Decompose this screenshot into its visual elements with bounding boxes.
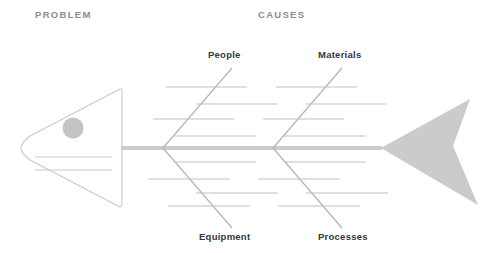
bone-group-people — [153, 68, 277, 148]
category-label-equipment: Equipment — [199, 231, 250, 242]
category-label-processes: Processes — [318, 231, 368, 242]
bone-group-processes — [258, 148, 388, 228]
bone-processes — [273, 148, 342, 228]
fishbone-diagram-graphic — [0, 0, 484, 253]
category-label-materials: Materials — [318, 49, 361, 60]
fishbone-diagram-canvas: PROBLEM CAUSES People Materials Equipmen… — [0, 0, 484, 253]
fish-tail-icon — [381, 99, 478, 205]
fish-head-group — [21, 89, 122, 207]
bone-group-materials — [263, 68, 387, 148]
category-label-people: People — [208, 49, 241, 60]
fish-eye-icon — [63, 118, 84, 139]
bone-equipment — [163, 148, 232, 228]
fish-head-outline — [21, 89, 122, 207]
header-problem: PROBLEM — [35, 9, 92, 20]
bone-group-equipment — [148, 148, 278, 228]
header-causes: CAUSES — [258, 9, 305, 20]
